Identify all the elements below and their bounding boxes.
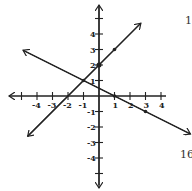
x-tick-label: -4: [32, 100, 41, 110]
edge-text-top-right: 1: [185, 14, 192, 27]
y-tick-label: -4: [87, 153, 96, 163]
line-decreasing-arrow: [23, 50, 190, 134]
point: [82, 79, 86, 83]
x-tick-label: -2: [63, 100, 72, 110]
point: [113, 48, 117, 52]
x-tick-label: 3: [144, 100, 150, 110]
y-tick-label: -1: [87, 107, 96, 117]
edge-text-bottom-right: 16: [180, 148, 192, 161]
x-tick-label: 4: [159, 100, 165, 110]
coordinate-graph: -4-3-2-112344321-1-2-3-4: [0, 0, 192, 191]
point: [144, 110, 148, 114]
point: [97, 63, 102, 68]
y-tick-label: 4: [90, 29, 96, 39]
y-tick-label: 3: [90, 45, 96, 55]
y-tick-label: -3: [87, 138, 96, 148]
y-tick-label: -2: [87, 122, 96, 132]
point: [113, 94, 117, 98]
x-tick-label: 1: [113, 100, 119, 110]
plotted-lines: [23, 23, 190, 136]
